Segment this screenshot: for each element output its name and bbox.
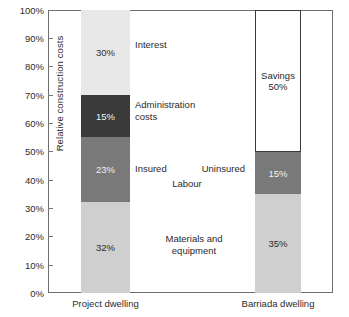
tick-mark-90 [48,38,53,39]
tick-mark-70 [48,95,53,96]
x-label-barriada-dwelling: Barriada dwelling [228,298,328,309]
y-axis-ticks: 100% 90% 80% 70% 60% 50% 40% 30% 20% 10%… [6,0,44,317]
y-axis-title: Relative construction costs [54,29,65,159]
segment-materials-project: 32% [81,202,130,293]
segment-savings-label: Savings [261,70,295,81]
tick-mark-60 [48,123,53,124]
segment-insured-labour: 23% [81,137,130,202]
annotation-insured: Insured [135,163,167,175]
annotation-labour: Labour [150,178,224,190]
tick-mark-40 [48,180,53,181]
segment-insured-labour-value: 23% [96,164,115,175]
bar-project-dwelling: 30% 15% 23% 32% [81,10,130,293]
y-tick-40: 40% [12,175,44,186]
segment-interest: 30% [81,10,130,95]
segment-materials-barriada: 35% [255,194,301,293]
y-tick-90: 90% [12,33,44,44]
annotation-materials-line1: Materials and [148,233,240,245]
y-tick-50: 50% [12,146,44,157]
segment-interest-value: 30% [96,47,115,58]
tick-mark-10 [48,265,53,266]
y-tick-20: 20% [12,231,44,242]
annotation-materials-line2: equipment [148,245,240,257]
tick-mark-30 [48,208,53,209]
annotation-administration-line2: costs [135,111,157,123]
segment-uninsured-labour-value: 15% [268,168,287,179]
y-tick-10: 10% [12,260,44,271]
y-tick-80: 80% [12,61,44,72]
annotation-interest: Interest [135,39,167,51]
annotation-administration-line1: Administration [135,99,195,111]
segment-administration: 15% [81,95,130,137]
tick-mark-20 [48,236,53,237]
y-tick-100: 100% [12,5,44,16]
segment-uninsured-labour: 15% [255,152,301,194]
bar-barriada-dwelling: Savings 50% 15% 35% [255,10,301,293]
y-tick-0: 0% [12,288,44,299]
y-tick-60: 60% [12,118,44,129]
segment-savings: Savings 50% [255,10,301,152]
y-tick-30: 30% [12,203,44,214]
annotation-uninsured: Uninsured [185,163,245,175]
y-tick-70: 70% [12,90,44,101]
segment-administration-value: 15% [96,111,115,122]
tick-mark-50 [48,151,53,152]
tick-mark-80 [48,66,53,67]
stacked-bar-chart: Relative construction costs 100% 90% 80%… [0,0,349,317]
segment-materials-project-value: 32% [96,242,115,253]
segment-materials-barriada-value: 35% [268,238,287,249]
x-label-project-dwelling: Project dwelling [58,298,153,309]
segment-savings-value: 50% [268,81,287,92]
